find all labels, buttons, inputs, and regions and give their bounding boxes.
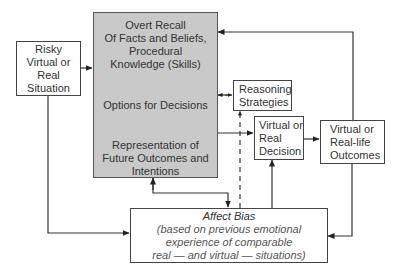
node-label: Virtual or <box>27 56 71 69</box>
node-outcomes: Virtual or Real-life Outcomes <box>320 120 385 164</box>
representation-text: Representation of Future Outcomes and In… <box>102 139 208 178</box>
node-label: Situation <box>27 82 70 95</box>
edge-cognition-affect <box>153 178 228 207</box>
node-affect-bias: Affect Bias (based on previous emotional… <box>130 208 328 263</box>
node-reasoning-strategies: Reasoning Strategies <box>233 80 292 111</box>
node-label: Real <box>37 69 60 82</box>
options-for-decisions: Options for Decisions <box>103 99 208 112</box>
node-cognition: Overt Recall Of Facts and Beliefs, Proce… <box>93 12 218 178</box>
edge-outcomes-to-affect <box>328 163 352 236</box>
node-decision: Virtual or Real Decision <box>254 116 304 160</box>
node-label: Risky <box>35 43 62 56</box>
overt-recall-text: Overt Recall Of Facts and Beliefs, Proce… <box>104 19 206 71</box>
node-risky-situation: Risky Virtual or Real Situation <box>16 41 81 96</box>
affect-bias-title: Affect Bias <box>203 210 256 223</box>
